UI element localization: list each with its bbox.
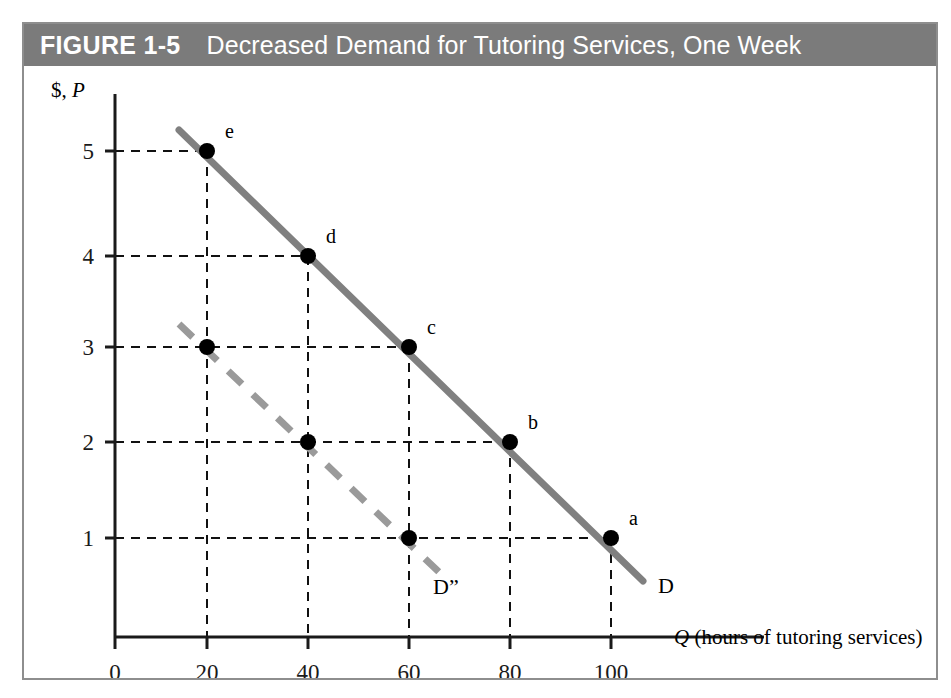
x-tick-label-0: 0 — [109, 660, 121, 678]
data-point-dprime-20 — [199, 339, 215, 355]
point-label-a: a — [629, 507, 638, 529]
point-label-b: b — [528, 411, 538, 433]
y-tick-label-2: 2 — [83, 430, 95, 455]
x-tick-labels: 0 20 40 60 80 100 — [109, 660, 628, 678]
y-tick-labels: 5 4 3 2 1 — [83, 139, 95, 551]
x-axis-label: Q (hours of tutoring services) — [674, 625, 922, 649]
x-tick-label-60: 60 — [398, 660, 421, 678]
y-axis-label-prefix: $, — [51, 78, 72, 102]
x-tick-label-80: 80 — [499, 660, 522, 678]
point-label-e: e — [225, 120, 234, 142]
x-axis-ticks — [115, 637, 611, 649]
data-point-e — [199, 143, 215, 159]
figure-header: FIGURE 1-5 Decreased Demand for Tutoring… — [24, 24, 936, 66]
x-axis-label-symbol: Q — [674, 625, 689, 649]
chart-plot-area: 5 4 3 2 1 0 20 40 60 80 100 $, P Q ( — [24, 66, 936, 678]
data-point-d — [300, 248, 316, 264]
x-tick-label-20: 20 — [196, 660, 219, 678]
figure-box: FIGURE 1-5 Decreased Demand for Tutoring… — [22, 22, 938, 680]
figure-caption: Decreased Demand for Tutoring Services, … — [207, 31, 802, 60]
y-axis-label: $, P — [51, 78, 85, 102]
curve-label-D: D — [658, 573, 674, 598]
chart-axes — [115, 94, 764, 637]
data-point-dprime-60 — [401, 530, 417, 546]
data-point-a — [603, 530, 619, 546]
demand-curve-D — [179, 130, 643, 581]
figure-number: FIGURE 1-5 — [40, 31, 181, 60]
point-labels: e d c b a — [225, 120, 638, 529]
data-points-D — [199, 143, 619, 546]
y-tick-label-1: 1 — [83, 526, 95, 551]
y-tick-label-3: 3 — [83, 335, 95, 360]
x-tick-label-100: 100 — [594, 660, 629, 678]
point-label-d: d — [326, 225, 336, 247]
y-axis-label-symbol: P — [71, 78, 85, 102]
data-point-c — [401, 339, 417, 355]
x-tick-label-40: 40 — [297, 660, 320, 678]
x-axis-label-rest: (hours of tutoring services) — [689, 625, 922, 649]
y-tick-label-5: 5 — [83, 139, 95, 164]
data-point-dprime-40 — [300, 434, 316, 450]
point-label-c: c — [427, 316, 436, 338]
figure-root: FIGURE 1-5 Decreased Demand for Tutoring… — [0, 0, 951, 698]
curve-label-D-double-prime: D” — [433, 574, 459, 599]
guide-lines-vertical — [207, 151, 611, 637]
demand-curve-chart: 5 4 3 2 1 0 20 40 60 80 100 $, P Q ( — [24, 66, 936, 678]
y-tick-label-4: 4 — [83, 244, 95, 269]
data-point-b — [502, 434, 518, 450]
